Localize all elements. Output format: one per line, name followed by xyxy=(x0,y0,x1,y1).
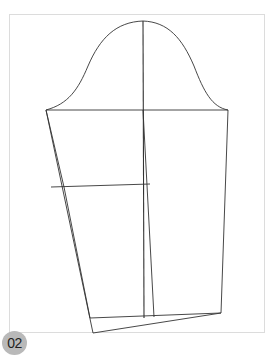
sleeve-pattern-diagram xyxy=(0,0,272,355)
hem-line-inner xyxy=(90,313,221,318)
slanted-center-line xyxy=(143,110,154,317)
figure-number-badge: 02 xyxy=(2,331,27,355)
sleeve-cap-curve xyxy=(46,21,228,110)
back-sleeve-seam xyxy=(221,110,228,313)
center-grain-line xyxy=(143,21,144,318)
elbow-line xyxy=(51,184,150,187)
hem-line-outer xyxy=(93,313,221,333)
